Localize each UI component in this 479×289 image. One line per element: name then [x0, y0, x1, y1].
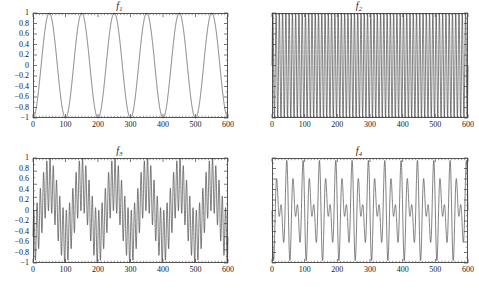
y-tick-label: −0.8: [14, 249, 29, 257]
y-tick-label: −0.2: [14, 72, 29, 80]
plot-area-f4: [272, 158, 468, 263]
plot-svg-f3: [33, 158, 228, 263]
plot-panel-f2: f2 10.80.60.40.20−0.2−0.4−0.6−0.8−1 0100…: [239, 0, 479, 145]
y-tick-label: 0.4: [19, 41, 29, 49]
y-tick-label: −0.6: [14, 93, 29, 101]
y-tick-label: −0.6: [14, 238, 29, 246]
plot-title-f1-subscript: 1: [119, 5, 122, 12]
y-tick-label: 0.8: [19, 20, 29, 28]
y-tick-label: 0.6: [19, 30, 29, 38]
y-tick-label: 1: [25, 154, 29, 162]
plot-title-f4-subscript: 4: [359, 150, 362, 157]
plot-panel-f1: f1 10.80.60.40.20−0.2−0.4−0.6−0.8−1 0100…: [0, 0, 239, 145]
plot-title-f3-subscript: 3: [119, 150, 122, 157]
y-tick-label: 0.4: [19, 186, 29, 194]
plot-svg-f1: [33, 13, 228, 118]
plot-title-f3: f3: [0, 145, 239, 158]
y-tick-label: −0.2: [14, 217, 29, 225]
plot-panel-f3: f3 21.510.50−0.5−1−1.5−2 010020030040050…: [0, 145, 239, 289]
plot-area-f2: [272, 13, 468, 118]
plot-title-f2-subscript: 2: [359, 5, 362, 12]
plot-panel-f4: f4 10.80.60.40.20−0.2−0.4−0.6−0.8−1 0100…: [239, 145, 479, 289]
x-tick-label: 600: [448, 266, 479, 274]
plot-area-f1: [33, 13, 228, 118]
plot-title-f2: f2: [239, 0, 479, 13]
plot-svg-f4: [272, 158, 468, 263]
y-tick-label: 0.2: [19, 51, 29, 59]
y-tick-label: 1: [25, 9, 29, 17]
plot-area-f3: [33, 158, 228, 263]
y-tick-label: −1: [20, 114, 29, 122]
y-tick-label: 0.6: [19, 175, 29, 183]
plot-svg-f2: [272, 13, 468, 118]
y-tick-label: 0: [25, 207, 29, 215]
y-tick-label: 0.2: [19, 196, 29, 204]
y-tick-label: −0.4: [14, 83, 29, 91]
plot-title-f1: f1: [0, 0, 239, 13]
y-tick-label: 0: [25, 62, 29, 70]
y-tick-label: −0.8: [14, 104, 29, 112]
y-tick-label: −0.4: [14, 228, 29, 236]
y-tick-label: −1: [20, 259, 29, 267]
x-tick-label: 600: [448, 121, 479, 129]
y-tick-label: 0.8: [19, 165, 29, 173]
plot-title-f4: f4: [239, 145, 479, 158]
figure-panel-grid: f1 10.80.60.40.20−0.2−0.4−0.6−0.8−1 0100…: [0, 0, 479, 289]
